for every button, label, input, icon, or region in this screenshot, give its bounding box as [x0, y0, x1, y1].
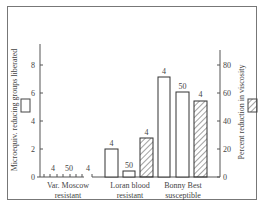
legend-hatched-bar-icon	[248, 99, 257, 112]
group-label-loran-line2: resistant	[117, 191, 144, 200]
bar-bonny-open-4	[158, 77, 170, 177]
right-tick-60: 60	[223, 89, 231, 98]
legend-open-bar-icon	[21, 99, 30, 112]
bonny-conc-4-hatched: 4	[199, 90, 203, 99]
bar-loran-open-50	[123, 171, 135, 177]
left-tick-8: 8	[31, 61, 35, 70]
group-label-bonny-line2: susceptible	[165, 191, 201, 200]
right-tick-20: 20	[223, 145, 231, 154]
left-tick-2: 2	[31, 145, 35, 154]
moscow-conc-50: 50	[65, 164, 73, 173]
left-axis-label: Microequiv. reducing groups liberated	[10, 49, 19, 172]
right-axis-label: Percent reduction in viscosity	[237, 65, 246, 160]
loran-conc-4-hatched: 4	[145, 128, 149, 137]
bonny-conc-50: 50	[179, 82, 187, 91]
right-tick-40: 40	[223, 117, 231, 126]
bar-bonny-hatched-4	[194, 101, 207, 177]
group-label-bonny-line1: Bonny Best	[164, 181, 202, 190]
bonny-conc-4: 4	[162, 67, 166, 76]
moscow-conc-4: 4	[51, 164, 55, 173]
group-label-loran-line1: Loran blood	[110, 181, 149, 190]
bar-bonny-open-50	[176, 92, 189, 177]
bar-loran-open-4	[105, 149, 118, 177]
right-axis: 0 20 40 60 80	[217, 50, 231, 182]
group-label-moscow-line2: resistant	[55, 191, 82, 200]
left-tick-4: 4	[31, 117, 35, 126]
right-tick-80: 80	[223, 61, 231, 70]
bar-loran-hatched-4	[140, 138, 153, 177]
left-tick-0: 0	[31, 173, 35, 182]
left-tick-6: 6	[31, 89, 35, 98]
moscow-conc-4-hatched: 4	[86, 164, 90, 173]
left-axis: 0 2 4 6 8	[31, 44, 43, 182]
bar-chart: 0 2 4 6 8 Microequiv. reducing groups li…	[0, 0, 266, 216]
right-tick-0: 0	[223, 173, 227, 182]
loran-conc-50: 50	[125, 161, 133, 170]
loran-conc-4: 4	[110, 139, 114, 148]
group-label-moscow-line1: Var. Moscow	[47, 181, 89, 190]
